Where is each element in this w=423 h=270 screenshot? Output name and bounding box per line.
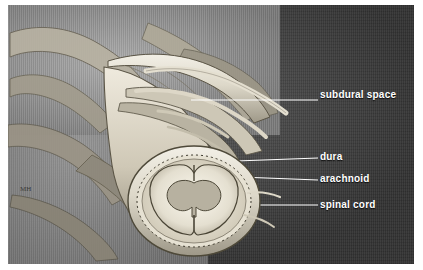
- label-spinal-cord: spinal cord: [320, 199, 376, 210]
- label-arachnoid: arachnoid: [320, 173, 370, 184]
- figure-frame: MH subdural space dura arachnoid spinal …: [8, 5, 414, 264]
- label-dura: dura: [320, 151, 342, 162]
- spinal-cord-cross-section: [128, 146, 260, 256]
- label-group: subdural space dura arachnoid spinal cor…: [308, 5, 414, 264]
- leader-dura: [236, 158, 318, 161]
- label-subdural-space: subdural space: [320, 89, 396, 100]
- artist-signature: MH: [20, 185, 31, 193]
- screenshot-root: MH subdural space dura arachnoid spinal …: [0, 0, 423, 270]
